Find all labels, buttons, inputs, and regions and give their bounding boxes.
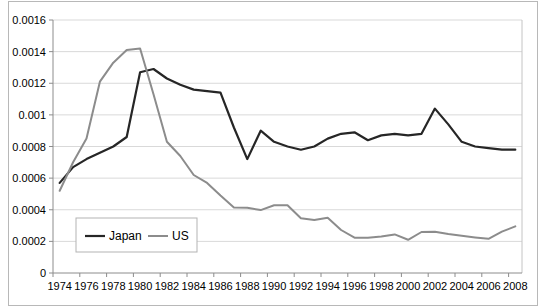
x-axis-label: 1998	[369, 280, 393, 292]
y-axis-label: 0.0012	[12, 77, 46, 89]
us-line	[60, 49, 516, 240]
x-axis-label: 2008	[503, 280, 527, 292]
y-axis-label: 0	[40, 267, 46, 279]
x-axis-label: 1986	[208, 280, 232, 292]
chart-figure: 00.00020.00040.00060.00080.0010.00120.00…	[0, 0, 541, 307]
x-axis-label: 1978	[101, 280, 125, 292]
x-axis-label: 1980	[128, 280, 152, 292]
x-axis-label: 1994	[315, 280, 339, 292]
x-axis-label: 1996	[342, 280, 366, 292]
legend-label-japan: Japan	[109, 229, 142, 243]
y-axis-label: 0.001	[18, 109, 46, 121]
x-axis-label: 1990	[262, 280, 286, 292]
x-axis-label: 1984	[181, 280, 205, 292]
y-axis-label: 0.0002	[12, 235, 46, 247]
x-axis-label: 2006	[476, 280, 500, 292]
x-axis-label: 1992	[289, 280, 313, 292]
x-axis-label: 1974	[47, 280, 71, 292]
japan-line	[60, 69, 516, 183]
x-axis-label: 1976	[74, 280, 98, 292]
x-axis-label: 2004	[449, 280, 473, 292]
y-axis-label: 0.0006	[12, 172, 46, 184]
line-chart: 00.00020.00040.00060.00080.0010.00120.00…	[0, 0, 541, 307]
legend-label-us: US	[172, 229, 189, 243]
y-axis-label: 0.0014	[12, 46, 46, 58]
x-axis-label: 2002	[423, 280, 447, 292]
y-axis-label: 0.0004	[12, 204, 46, 216]
x-axis-label: 1982	[155, 280, 179, 292]
y-axis-label: 0.0016	[12, 14, 46, 26]
x-axis-label: 1988	[235, 280, 259, 292]
y-axis-label: 0.0008	[12, 141, 46, 153]
x-axis-label: 2000	[396, 280, 420, 292]
